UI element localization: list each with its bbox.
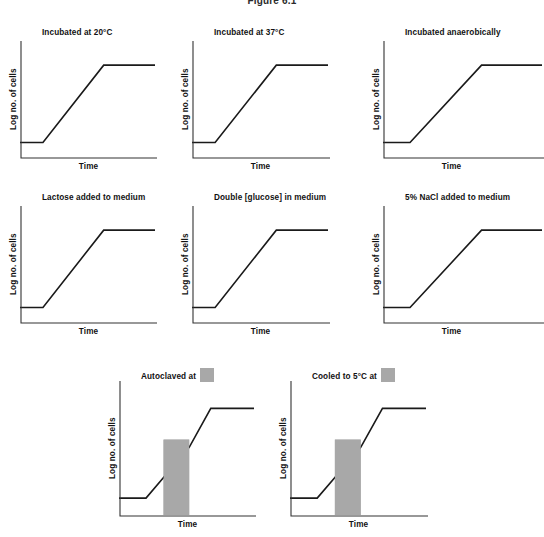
figure-caption: Figure 6.1: [0, 0, 544, 6]
x-axis-label-incubated-20c: Time: [20, 162, 157, 171]
growth-curve-line-lactose-added: [20, 230, 155, 307]
growth-curve-panel-lactose-added: Lactose added to mediumLog no. of cellsT…: [0, 0, 544, 537]
axes-nacl-added: [384, 206, 544, 323]
plot-area-cooled-5c-at: [290, 381, 428, 517]
y-axis-label-autoclaved-at: Log no. of cells: [108, 417, 117, 479]
panel-title-incubated-anaerobically: Incubated anaerobically: [405, 28, 501, 38]
axes-lactose-added: [21, 206, 157, 323]
y-axis-label-cooled-5c-at: Log no. of cells: [279, 417, 288, 479]
plot-area-double-glucose: [192, 206, 330, 324]
plot-area-incubated-20c: [20, 41, 157, 159]
y-axis-label-incubated-37c: Log no. of cells: [181, 68, 190, 130]
x-axis-label-incubated-anaerobically: Time: [383, 162, 520, 171]
growth-curve-line-nacl-added: [383, 230, 542, 307]
growth-curve-panel-incubated-anaerobically: Incubated anaerobicallyLog no. of cellsT…: [0, 0, 544, 537]
axes-double-glucose: [193, 206, 330, 323]
y-axis-label-incubated-anaerobically: Log no. of cells: [372, 68, 381, 130]
panel-title-nacl-added: 5% NaCl added to medium: [405, 193, 510, 203]
growth-curve-panel-incubated-37c: Incubated at 37°CLog no. of cellsTime: [0, 0, 544, 537]
growth-curve-line-incubated-37c: [192, 65, 328, 142]
growth-curve-panel-nacl-added: 5% NaCl added to mediumLog no. of cellsT…: [0, 0, 544, 537]
panel-title-text: Double [glucose] in medium: [214, 193, 326, 202]
panel-title-text: 5% NaCl added to medium: [405, 193, 510, 202]
treatment-band-swatch-icon: [200, 368, 214, 382]
panel-title-text: Cooled to 5°C at: [312, 372, 377, 381]
growth-curve-panel-incubated-20c: Incubated at 20°CLog no. of cellsTime: [0, 0, 544, 537]
plot-area-autoclaved-at: [119, 381, 256, 517]
treatment-band-overlay-cooled-5c-at: [335, 440, 361, 515]
growth-curve-panel-cooled-5c-at: Cooled to 5°C atLog no. of cellsTime: [0, 0, 544, 537]
y-axis-label-nacl-added: Log no. of cells: [372, 233, 381, 295]
panel-title-autoclaved-at: Autoclaved at: [141, 368, 214, 382]
treatment-band-autoclaved-at: [164, 440, 190, 515]
growth-curve-panel-double-glucose: Double [glucose] in mediumLog no. of cel…: [0, 0, 544, 537]
panel-title-text: Incubated anaerobically: [405, 28, 501, 37]
growth-curve-line-incubated-20c: [20, 65, 155, 142]
axes-incubated-anaerobically: [384, 41, 544, 158]
panel-title-incubated-20c: Incubated at 20°C: [42, 28, 113, 38]
treatment-band-cooled-5c-at: [335, 440, 361, 515]
panel-title-lactose-added: Lactose added to medium: [42, 193, 145, 203]
growth-curve-line-double-glucose: [192, 230, 328, 307]
y-axis-label-lactose-added: Log no. of cells: [9, 233, 18, 295]
axes-autoclaved-at: [120, 381, 256, 516]
plot-area-lactose-added: [20, 206, 157, 324]
growth-curve-line-autoclaved-at: [119, 408, 254, 498]
growth-curve-line-incubated-anaerobically: [383, 65, 542, 142]
plot-area-nacl-added: [383, 206, 544, 324]
treatment-band-swatch-icon: [381, 368, 395, 382]
x-axis-label-double-glucose: Time: [192, 327, 329, 336]
x-axis-label-autoclaved-at: Time: [119, 520, 256, 529]
panel-title-double-glucose: Double [glucose] in medium: [214, 193, 326, 203]
figure-root: Figure 6.1 Incubated at 20°CLog no. of c…: [0, 0, 544, 537]
plot-area-incubated-anaerobically: [383, 41, 544, 159]
growth-curve-panel-autoclaved-at: Autoclaved atLog no. of cellsTime: [0, 0, 544, 537]
axes-incubated-37c: [193, 41, 330, 158]
panel-title-text: Incubated at 37°C: [214, 28, 285, 37]
y-axis-label-incubated-20c: Log no. of cells: [9, 68, 18, 130]
x-axis-label-incubated-37c: Time: [192, 162, 329, 171]
panel-title-cooled-5c-at: Cooled to 5°C at: [312, 368, 395, 382]
panel-title-incubated-37c: Incubated at 37°C: [214, 28, 285, 38]
x-axis-label-nacl-added: Time: [383, 327, 520, 336]
growth-curve-line-cooled-5c-at: [290, 408, 426, 498]
x-axis-label-lactose-added: Time: [20, 327, 157, 336]
axes-incubated-20c: [21, 41, 157, 158]
x-axis-label-cooled-5c-at: Time: [290, 520, 427, 529]
plot-area-incubated-37c: [192, 41, 330, 159]
panel-title-text: Autoclaved at: [141, 372, 196, 381]
panel-title-text: Lactose added to medium: [42, 193, 145, 202]
y-axis-label-double-glucose: Log no. of cells: [181, 233, 190, 295]
panel-title-text: Incubated at 20°C: [42, 28, 113, 37]
axes-cooled-5c-at: [291, 381, 428, 516]
treatment-band-overlay-autoclaved-at: [164, 440, 190, 515]
